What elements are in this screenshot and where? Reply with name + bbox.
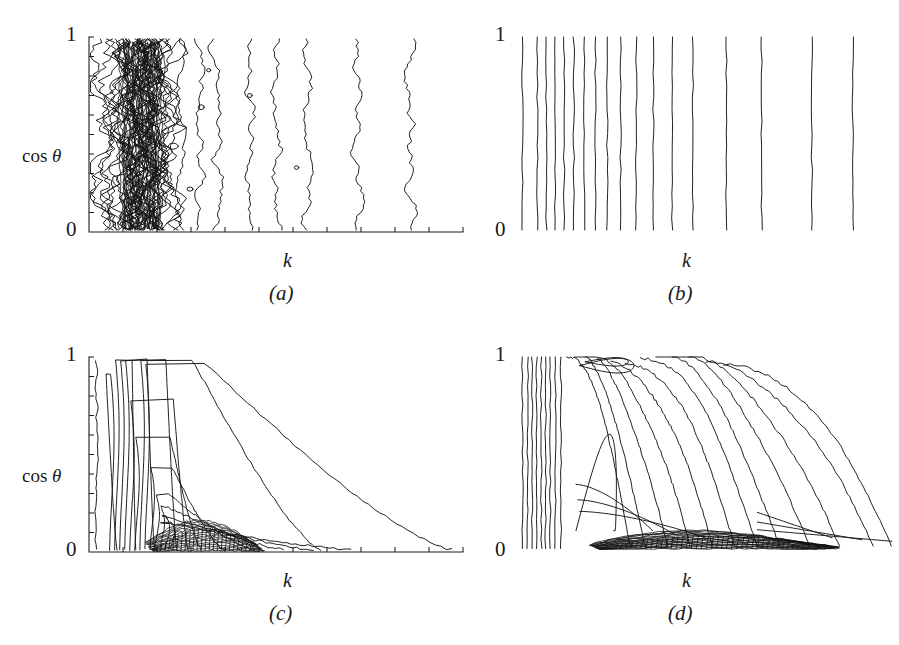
figure-contour-grid: 1 0 cos θ k (a) 1 0 k (b) 1 0 cos θ k (c…: [0, 0, 899, 645]
panel-d-caption: (d): [668, 601, 693, 626]
panel-c-plot: [0, 322, 470, 645]
panel-a-ylabel-prefix: cos: [22, 145, 52, 166]
panel-c-ylabel: cos θ: [22, 465, 61, 487]
panel-d-ytick-bottom: 0: [495, 539, 506, 560]
panel-a-ylabel: cos θ: [22, 145, 61, 167]
panel-a: 1 0 cos θ k (a): [0, 0, 470, 322]
panel-b-plot: [470, 0, 899, 322]
panel-d-ytick-top: 1: [495, 344, 506, 365]
panel-d-plot: [470, 322, 899, 645]
panel-c-caption: (c): [269, 601, 292, 626]
panel-c-ylabel-prefix: cos: [22, 465, 52, 486]
theta-symbol: θ: [52, 145, 61, 166]
panel-d: 1 0 k (d): [470, 322, 899, 645]
panel-a-ytick-top: 1: [66, 24, 77, 45]
panel-b-ytick-top: 1: [495, 24, 506, 45]
panel-b-ytick-bottom: 0: [495, 219, 506, 240]
panel-c-xlabel: k: [283, 569, 292, 592]
panel-c: 1 0 cos θ k (c): [0, 322, 470, 645]
panel-c-ytick-top: 1: [66, 344, 77, 365]
panel-b: 1 0 k (b): [470, 0, 899, 322]
panel-d-xlabel: k: [682, 569, 691, 592]
panel-c-ytick-bottom: 0: [66, 539, 77, 560]
panel-b-caption: (b): [668, 281, 693, 306]
theta-symbol: θ: [52, 465, 61, 486]
panel-a-plot: [0, 0, 470, 322]
panel-a-ytick-bottom: 0: [66, 219, 77, 240]
panel-b-xlabel: k: [682, 249, 691, 272]
panel-a-xlabel: k: [283, 249, 292, 272]
panel-a-caption: (a): [269, 281, 294, 306]
